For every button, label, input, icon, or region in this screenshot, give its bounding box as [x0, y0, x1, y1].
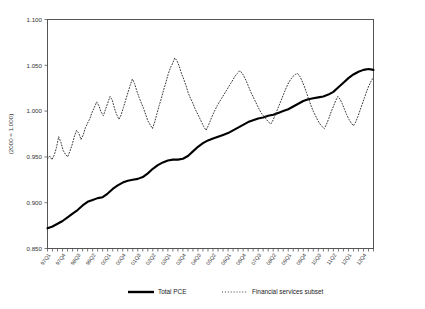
line-chart: 1.1001.0501.0000.9500.9000.850 97Q197Q49…: [0, 0, 425, 309]
y-axis-tick-label: 1.100: [27, 16, 43, 23]
y-axis-tick-label: 1.050: [27, 62, 43, 69]
y-axis-tick-label: 1.000: [27, 107, 43, 114]
y-axis-tick-label: 0.850: [27, 245, 43, 252]
legend-label-1: Financial services subset: [252, 288, 324, 295]
y-axis-title: (2000 = 1.000): [7, 114, 14, 154]
y-axis-tick-label: 0.900: [27, 199, 43, 206]
legend-label-0: Total PCE: [158, 288, 186, 295]
chart-container: 1.1001.0501.0000.9500.9000.850 97Q197Q49…: [0, 0, 425, 309]
y-axis-tick-label: 0.950: [27, 153, 43, 160]
